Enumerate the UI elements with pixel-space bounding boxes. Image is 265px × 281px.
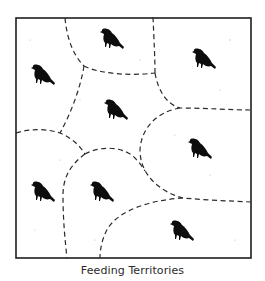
boundary-bottom-right	[100, 198, 183, 258]
bird-icon	[188, 139, 212, 159]
boundary-top-left-arc	[65, 18, 84, 66]
boundary-top-center-bottom	[84, 66, 155, 74]
bird-icon	[104, 100, 128, 120]
bird-icon	[100, 29, 124, 49]
boundary-top-right-bottom	[155, 73, 251, 110]
birds	[31, 29, 216, 241]
boundary-left-arc	[16, 130, 85, 154]
boundary-bottom-left	[63, 154, 85, 258]
boundary-right-loop	[140, 108, 251, 202]
bird-icon	[90, 182, 114, 202]
bird-icon	[31, 182, 55, 202]
territory-frame	[16, 18, 251, 258]
boundary-center-arc	[85, 148, 145, 171]
feeding-territories-diagram	[0, 0, 265, 281]
bird-icon	[170, 221, 194, 241]
territory-boundaries	[16, 17, 251, 258]
bird-icon	[192, 49, 216, 69]
bird-icon	[31, 65, 55, 85]
figure-caption: Feeding Territories	[0, 264, 265, 277]
boundary-top-center-right	[153, 17, 155, 73]
background-specks	[29, 39, 235, 240]
boundary-left-middle	[60, 66, 84, 133]
